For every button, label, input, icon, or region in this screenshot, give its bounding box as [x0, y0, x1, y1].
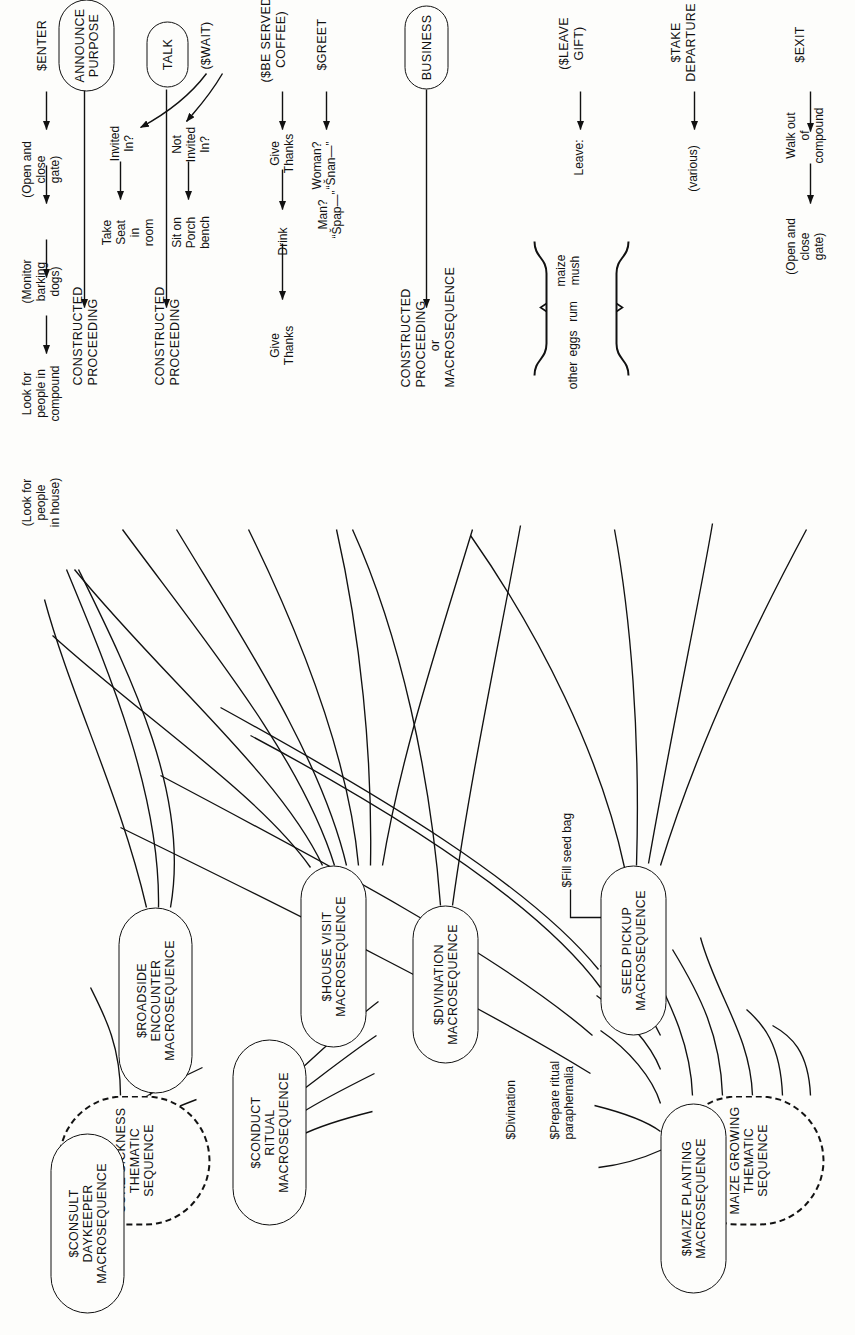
macrosequence-roadside-encounter[interactable]: $ROADSIDE ENCOUNTER MACROSEQUENCE: [118, 907, 192, 1093]
row-head-wait: ($WAIT): [198, 15, 213, 75]
thematic-sequence-label: MAIZE GROWING THEMATIC SEQUENCE: [727, 1103, 769, 1217]
terminal-business: CONSTRUCTED PROCEEDING or MACROSEQUENCE: [398, 303, 456, 387]
row-head-be-served-coffee: ($BE SERVED COFFEE): [258, 0, 287, 87]
macrosequence-label: $CONSULT DAYKEEPER MACROSEQUENCE: [66, 1163, 108, 1284]
macrosequence-divination[interactable]: $DIVINATION MACROSEQUENCE: [412, 905, 478, 1063]
row-step-exit-0: Walk out of compound: [784, 95, 826, 175]
macrosequence-house-visit[interactable]: $HOUSE VISIT MACROSEQUENCE: [300, 865, 366, 1047]
row-head-leave-gift: ($LEAVE GIFT): [556, 5, 585, 81]
wait-branch-1-condition: Invited In?: [108, 115, 136, 171]
figure-page: MAIZE GROWING THEMATIC SEQUENCE CURE SIC…: [0, 0, 855, 1335]
scene-node-label: TALK: [160, 38, 174, 70]
macrosequence-maize-planting[interactable]: $MAIZE PLANTING MACROSEQUENCE: [660, 1103, 726, 1293]
step-fill-seed-bag: $Fill seed bag: [560, 747, 574, 887]
wait-branch-0-result: Sit on Porch bench: [170, 201, 212, 263]
macrosequence-label: $ROADSIDE ENCOUNTER MACROSEQUENCE: [134, 940, 176, 1061]
row-head-take-departure: $TAKE DEPARTURE: [668, 0, 697, 85]
step-prepare-ritual-paraphernalia: $Prepare ritual paraphernalia: [548, 959, 576, 1139]
row-step-coffee-2: Give Thanks: [268, 317, 296, 373]
scene-node-announce-purpose[interactable]: ANNOUNCE PURPOSE: [58, 0, 114, 91]
row-head-enter: $ENTER: [34, 9, 49, 81]
row-step-leave-gift-0: Leave:: [572, 129, 586, 185]
macrosequence-conduct-ritual[interactable]: $CONDUCT RITUAL MACROSEQUENCE: [232, 1039, 306, 1225]
macrosequence-label: $CONDUCT RITUAL MACROSEQUENCE: [248, 1072, 290, 1193]
terminal-talk: CONSTRUCTED PROCEEDING: [152, 303, 181, 385]
row-step-exit-1: (Open and close gate): [784, 201, 826, 291]
row-step-coffee-1: Drink: [276, 213, 290, 269]
row-step-coffee-0: Give Thanks: [268, 125, 296, 181]
row-step-enter-2: Look for people in compound: [20, 351, 62, 435]
terminal-announce-purpose: CONSTRUCTED PROCEEDING: [70, 303, 99, 385]
macrosequence-consult-daykeeper[interactable]: $CONSULT DAYKEEPER MACROSEQUENCE: [50, 1133, 124, 1313]
step-divination: $Divination: [504, 979, 518, 1139]
row-step-enter-3: (Look for people in house): [20, 459, 62, 545]
row-step-enter-1: (Monitor barking dogs): [20, 243, 62, 319]
scene-node-talk[interactable]: TALK: [146, 21, 188, 87]
macrosequence-label: SEED PICKUP MACROSEQUENCE: [619, 890, 647, 1011]
scene-node-label: ANNOUNCE PURPOSE: [72, 8, 100, 82]
scene-node-business[interactable]: BUSINESS: [404, 5, 448, 89]
wait-branch-0-condition: Not Invited In?: [170, 115, 212, 173]
macrosequence-label: $DIVINATION MACROSEQUENCE: [431, 924, 459, 1045]
diagram-canvas: MAIZE GROWING THEMATIC SEQUENCE CURE SIC…: [0, 0, 855, 1335]
row-head-exit: $EXIT: [792, 7, 807, 81]
row-head-greet: $GREET: [314, 9, 329, 79]
gift-item-3: other: [566, 349, 580, 401]
row-step-enter-0: (Open and close gate): [20, 129, 62, 209]
macrosequence-seed-pickup[interactable]: SEED PICKUP MACROSEQUENCE: [600, 865, 666, 1035]
wait-branch-1-result: Take Seat in room: [100, 203, 156, 261]
greet-alternative-1: Man? “Špap—”: [316, 183, 344, 245]
macrosequence-label: $MAIZE PLANTING MACROSEQUENCE: [679, 1138, 707, 1259]
macrosequence-label: $HOUSE VISIT MACROSEQUENCE: [319, 896, 347, 1017]
row-step-take-departure-0: (various): [686, 129, 700, 207]
scene-node-label: BUSINESS: [419, 14, 433, 80]
